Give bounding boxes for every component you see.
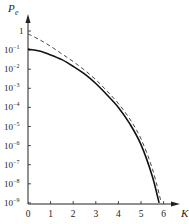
svg-text:e: e bbox=[15, 8, 19, 17]
series-solid-line bbox=[28, 49, 159, 203]
y-axis-arrow-icon bbox=[26, 14, 31, 23]
y-tick-label: 10−8 bbox=[4, 178, 19, 189]
series-dashed-line bbox=[28, 34, 161, 203]
y-tick-label: 10−9 bbox=[4, 197, 19, 208]
y-tick-label: 10−3 bbox=[4, 82, 19, 93]
x-tick-label: 2 bbox=[71, 209, 76, 219]
x-tick-label: 1 bbox=[48, 209, 53, 219]
x-tick-label: 4 bbox=[116, 209, 121, 219]
y-ticks: 110−110−210−310−410−510−610−710−810−9 bbox=[4, 26, 31, 208]
y-tick-label: 1 bbox=[19, 26, 24, 36]
y-tick-label: 10−4 bbox=[4, 101, 19, 112]
y-axis-label: P e bbox=[7, 2, 19, 17]
x-tick-label: 0 bbox=[26, 209, 31, 219]
y-tick-label: 10−7 bbox=[4, 159, 19, 170]
svg-text:P: P bbox=[7, 2, 15, 14]
y-tick-label: 10−5 bbox=[4, 121, 19, 132]
y-tick-label: 10−6 bbox=[4, 140, 19, 151]
x-axis-label: K bbox=[180, 207, 189, 219]
y-tick-label: 10−2 bbox=[4, 63, 19, 74]
x-tick-label: 5 bbox=[139, 209, 144, 219]
x-axis-arrow-icon bbox=[171, 202, 180, 207]
chart: P e K 110−110−210−310−410−510−610−710−81… bbox=[0, 0, 189, 224]
x-tick-label: 6 bbox=[161, 209, 166, 219]
y-tick-label: 10−1 bbox=[4, 44, 19, 55]
x-tick-label: 3 bbox=[93, 209, 98, 219]
